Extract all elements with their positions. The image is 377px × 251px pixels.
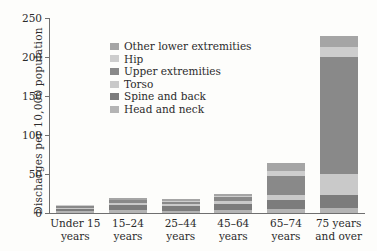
bar-segment[interactable] bbox=[320, 195, 358, 209]
legend-item-label: Head and neck bbox=[124, 104, 204, 115]
y-tick-label: 150 bbox=[22, 90, 42, 102]
bar-segment[interactable] bbox=[267, 163, 305, 171]
bar-segment[interactable] bbox=[267, 200, 305, 209]
legend-item-label: Other lower extremities bbox=[124, 41, 251, 52]
legend-swatch-icon bbox=[110, 68, 119, 75]
bar-segment[interactable] bbox=[267, 209, 305, 213]
legend-swatch-icon bbox=[110, 106, 119, 113]
y-tick-mark bbox=[45, 174, 49, 175]
bar[interactable] bbox=[56, 205, 94, 214]
legend-swatch-icon bbox=[110, 55, 119, 62]
bar-segment[interactable] bbox=[109, 210, 147, 214]
plot-area: 050100150200250 Under 15years15–24years2… bbox=[49, 18, 365, 213]
bar-segment[interactable] bbox=[56, 211, 94, 213]
y-tick-label: 200 bbox=[22, 51, 42, 63]
legend-item[interactable]: Head and neck bbox=[110, 103, 251, 116]
bar-segment[interactable] bbox=[320, 174, 358, 195]
bar-segment[interactable] bbox=[162, 211, 200, 213]
bar[interactable] bbox=[214, 194, 252, 213]
x-tick-label-line: 75 years bbox=[302, 217, 376, 230]
bar-segment[interactable] bbox=[320, 208, 358, 213]
legend-item-label: Upper extremities bbox=[124, 66, 221, 77]
y-axis-line bbox=[49, 18, 50, 213]
legend-item[interactable]: Other lower extremities bbox=[110, 40, 251, 53]
bar-segment[interactable] bbox=[214, 204, 252, 211]
y-tick-label: 50 bbox=[29, 168, 42, 180]
y-tick-mark bbox=[45, 96, 49, 97]
legend-item-label: Hip bbox=[124, 54, 143, 65]
x-tick-label-line: and over bbox=[302, 230, 376, 243]
bar-segment[interactable] bbox=[320, 36, 358, 47]
y-tick-label: 100 bbox=[22, 129, 42, 141]
y-tick-mark bbox=[45, 213, 49, 214]
bar-segment[interactable] bbox=[320, 57, 358, 174]
bar[interactable] bbox=[267, 163, 305, 213]
bar[interactable] bbox=[109, 198, 147, 213]
y-tick-mark bbox=[45, 18, 49, 19]
legend-item[interactable]: Torso bbox=[110, 78, 251, 91]
legend-item-label: Spine and back bbox=[124, 91, 206, 102]
y-tick-label: 250 bbox=[22, 12, 42, 24]
bar-segment[interactable] bbox=[267, 176, 305, 196]
x-tick-label: 75 yearsand over bbox=[302, 217, 376, 242]
bar-segment[interactable] bbox=[320, 47, 358, 57]
y-tick-mark bbox=[45, 57, 49, 58]
legend-item[interactable]: Hip bbox=[110, 53, 251, 66]
chart-legend: Other lower extremitiesHipUpper extremit… bbox=[110, 40, 251, 116]
legend-item[interactable]: Spine and back bbox=[110, 90, 251, 103]
legend-item-label: Torso bbox=[124, 79, 153, 90]
x-axis-line bbox=[49, 213, 365, 214]
legend-item[interactable]: Upper extremities bbox=[110, 65, 251, 78]
bar[interactable] bbox=[162, 199, 200, 213]
bar[interactable] bbox=[320, 36, 358, 213]
legend-swatch-icon bbox=[110, 43, 119, 50]
bar-segment[interactable] bbox=[214, 210, 252, 213]
legend-swatch-icon bbox=[110, 81, 119, 88]
y-tick-mark bbox=[45, 135, 49, 136]
chart-figure: Discharges per 10,000 population 0501001… bbox=[0, 0, 377, 251]
legend-swatch-icon bbox=[110, 93, 119, 100]
